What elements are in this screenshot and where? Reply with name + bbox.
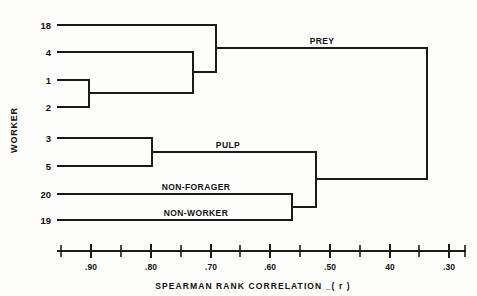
x-tick-label-80: .80 [145,262,157,272]
cluster-label-non-forager: NON-FORAGER [162,182,231,192]
cluster-label-non-worker: NON-WORKER [164,208,228,218]
merge-4-12 [193,51,216,94]
x-axis-title: SPEARMAN RANK CORRELATION _( r ) [155,281,351,291]
y-axis-title: WORKER [9,107,19,153]
leaf-label-4: 4 [46,47,52,58]
x-tick-label-60: .60 [264,262,276,272]
dendrogram-figure: 18 4 1 2 3 5 20 19 PREY PULP NON-FORAGER… [0,0,477,296]
y-axis-title-group: WORKER [9,107,19,153]
x-axis: .90 .80 .70 .60 .50 40 .30 SPEARMAN RANK… [57,244,466,291]
merge-1-2 [89,79,193,108]
cluster-label-pulp: PULP [216,140,240,150]
x-tick-label-90: .90 [85,262,97,272]
cluster-label-prey: PREY [310,36,335,46]
leaf-label-20: 20 [40,189,51,200]
x-tick-label-70: .70 [205,262,217,272]
leaf-label-18: 18 [40,20,51,31]
dendrogram-canvas: 18 4 1 2 3 5 20 19 PREY PULP NON-FORAGER… [0,0,477,296]
x-tick-label-30: .30 [443,262,455,272]
merge-20-19 [292,193,316,221]
cluster-annotations: PREY PULP NON-FORAGER NON-WORKER [162,36,335,218]
x-tick-label-50: .50 [324,262,336,272]
leaf-label-19: 19 [40,215,51,226]
leaf-label-3: 3 [46,133,51,144]
leaf-label-2: 2 [46,102,51,113]
leaf-labels: 18 4 1 2 3 5 20 19 [40,20,51,226]
x-tick-label-40: 40 [385,262,395,272]
leaf-label-5: 5 [46,161,52,172]
merge-pulp-nonworkers [316,151,427,208]
leaf-label-1: 1 [46,75,52,86]
merge-prey [216,24,427,73]
